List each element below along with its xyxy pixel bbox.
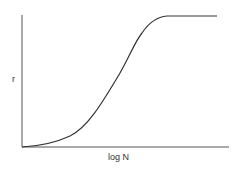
x-axis-label: log N bbox=[108, 152, 129, 162]
sigmoid-curve bbox=[22, 16, 217, 147]
y-axis-label: r bbox=[12, 74, 15, 84]
chart-canvas bbox=[0, 0, 239, 171]
